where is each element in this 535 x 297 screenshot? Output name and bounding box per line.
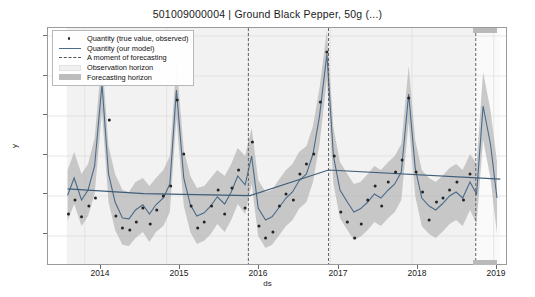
legend-item-forecast-moment: A moment of forecasting: [57, 53, 188, 63]
legend-label: A moment of forecasting: [87, 53, 167, 62]
x-tick-mark: [100, 265, 101, 269]
forecast-horizon-bar-bottom: [473, 260, 497, 265]
x-tick-label: 2016: [249, 268, 268, 278]
x-tick-mark: [417, 265, 418, 269]
chart-legend: Quantity (true value, observed) Quantity…: [52, 30, 194, 86]
dot-marker-icon: [57, 34, 83, 43]
x-tick-label: 2018: [408, 268, 427, 278]
legend-label: Observation horizon: [87, 63, 153, 72]
y-axis-label: y: [10, 144, 19, 148]
x-tick-label: 2015: [170, 268, 189, 278]
legend-label: Quantity (our model): [87, 44, 154, 53]
line-marker-icon: [57, 44, 83, 53]
x-tick-label: 2019: [487, 268, 506, 278]
dashed-line-marker-icon: [57, 53, 83, 62]
forecast-horizon-bar-top: [473, 28, 497, 33]
legend-item-observation-horizon: Observation horizon: [57, 63, 188, 73]
legend-item-model: Quantity (our model): [57, 44, 188, 54]
x-axis-label: ds: [0, 279, 535, 288]
legend-item-forecasting-horizon: Forecasting horizon: [57, 72, 188, 82]
chart-root: 501009000004 | Ground Black Pepper, 50g …: [0, 0, 535, 297]
x-tick-mark: [258, 265, 259, 269]
legend-label: Forecasting horizon: [87, 73, 152, 82]
legend-label: Quantity (true value, observed): [87, 34, 188, 43]
x-tick-label: 2017: [329, 268, 348, 278]
patch-marker-icon: [57, 73, 83, 82]
x-tick-label: 2014: [91, 268, 110, 278]
legend-item-observed: Quantity (true value, observed): [57, 34, 188, 44]
x-tick-mark: [338, 265, 339, 269]
x-tick-mark: [179, 265, 180, 269]
patch-marker-icon: [57, 63, 83, 72]
x-tick-mark: [496, 265, 497, 269]
page-title: 501009000004 | Ground Black Pepper, 50g …: [0, 8, 535, 20]
